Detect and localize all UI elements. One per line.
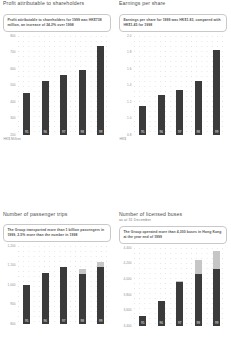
chart-bar-year-label: 95 [141,131,144,135]
chart-subtitle: as at 31 December [119,218,227,222]
chart-bar-segment-primary: 99 [213,50,220,135]
chart-bar-year-label: 96 [44,131,47,135]
chart-bar-segment-primary: 96 [158,301,165,326]
y-axis-tick-label: 3,400 [124,324,132,328]
chart-callout: The Group transported more than 1 billio… [3,224,111,242]
chart-bar-segment-primary: 97 [176,282,183,326]
y-axis-tick-label: 4,400 [124,246,132,250]
chart-bar: 98 [79,36,86,135]
y-axis-tick-label: 1.8 [127,50,131,54]
chart-bar: 97 [176,36,183,135]
chart-bar-year-label: 99 [99,320,102,324]
chart-bar-segment-primary: 95 [23,93,30,135]
chart-bar-segment-primary: 96 [42,81,49,135]
chart-bar-segment-primary: 99 [213,269,220,326]
chart-title: Earnings per share [119,0,227,6]
chart-bar-year-label: 95 [25,131,28,135]
chart-bar: 95 [139,248,146,326]
chart-bars: 9596979899 [134,248,227,326]
chart-bar: 95 [139,36,146,135]
y-axis-tick-label: 2.0 [127,34,131,38]
chart-plot-area: 8009001,0001,1001,200 9596979899 [3,246,111,324]
chart-bar-year-label: 98 [81,131,84,135]
y-axis-tick-label: 800 [10,322,15,326]
chart-callout: Profit attributable to shareholders for … [3,14,111,32]
y-axis-tick-label: 800 [10,34,15,38]
chart-bar-segment-primary: 97 [176,90,183,135]
y-axis-tick-label: 1,200 [8,244,16,248]
y-axis-tick-label: 200 [10,133,15,137]
chart-bar-segment-primary: 95 [139,106,146,135]
chart-bar-year-label: 96 [160,131,163,135]
chart-bar: 98 [79,246,86,324]
chart-bar-segment-primary: 95 [139,316,146,326]
y-axis-tick-label: 600 [10,67,15,71]
chart-bars: 9596979899 [18,36,111,135]
chart-bar-segment-secondary [213,251,220,269]
chart-bar-segment-primary: 97 [60,75,67,135]
chart-bar-segment-primary: 99 [97,46,104,135]
chart-plot-area: 3,4003,6003,8004,0004,2004,400 959697989… [119,248,227,326]
chart-bar: 98 [195,36,202,135]
chart-bar: 95 [23,246,30,324]
chart-bar-year-label: 97 [178,322,181,326]
chart-bar-segment-primary: 97 [60,267,67,324]
chart-bar-segment-secondary [195,260,202,274]
chart-bar-year-label: 96 [160,322,163,326]
chart-bar: 97 [176,248,183,326]
chart-panel-earnings-per-share: Earnings per share Earnings per share fo… [116,0,231,171]
chart-bar-segment-primary: 95 [23,285,30,324]
chart-bar: 96 [42,36,49,135]
chart-bar: 96 [42,246,49,324]
chart-title: Number of passenger trips [3,211,111,217]
chart-bar-year-label: 96 [44,320,47,324]
y-axis-tick-label: 1.0 [127,116,131,120]
y-axis-tick-label: 900 [10,302,15,306]
chart-bar-segment-primary: 96 [158,95,165,135]
chart-bar-year-label: 95 [141,322,144,326]
chart-panel-licensed-buses: Number of licensed buses as at 31 Decemb… [116,171,231,342]
y-axis-tick-label: 3,600 [124,308,132,312]
chart-bar: 99 [97,246,104,324]
y-axis-tick-label: 1,000 [8,283,16,287]
y-axis-tick-label: 1.6 [127,67,131,71]
chart-bar-segment-primary: 98 [79,70,86,135]
y-axis-tick-label: 300 [10,116,15,120]
chart-bar-year-label: 95 [25,320,28,324]
chart-bar: 99 [213,248,220,326]
chart-bar-segment-primary: 98 [195,81,202,135]
chart-bar-year-label: 97 [178,131,181,135]
chart-bars: 9596979899 [134,36,227,135]
chart-bar: 95 [23,36,30,135]
y-axis-tick-label: 4,000 [124,277,132,281]
chart-bar-year-label: 99 [215,131,218,135]
y-axis-tick-label: 3,800 [124,293,132,297]
chart-bar-year-label: 99 [215,322,218,326]
chart-bar: 96 [158,248,165,326]
y-axis-tick-label: 1.2 [127,100,131,104]
chart-bar-segment-primary: 98 [195,274,202,325]
chart-bar-year-label: 97 [62,320,65,324]
chart-unit-caption: HK$ [119,137,227,141]
y-axis-labels: 0.81.01.21.41.61.82.0 [119,36,133,135]
chart-panel-passenger-trips: Number of passenger trips The Group tran… [0,171,115,342]
chart-title: Number of licensed buses [119,211,227,217]
y-axis-tick-label: 500 [10,83,15,87]
chart-title: Profit attributable to shareholders [3,0,111,6]
y-axis-tick-label: 400 [10,100,15,104]
chart-plot-area: 0.81.01.21.41.61.82.0 9596979899 [119,36,227,135]
y-axis-tick-label: 4,200 [124,261,132,265]
y-axis-labels: 8009001,0001,1001,200 [3,246,17,324]
chart-bar: 99 [97,36,104,135]
chart-bar: 97 [60,36,67,135]
chart-callout: Earnings per share for 1999 was HK$1.83,… [119,14,227,32]
chart-bar: 98 [195,248,202,326]
chart-callout: The Group operated more than 4,300 buses… [119,226,227,244]
chart-bar-segment-primary: 99 [97,267,104,324]
y-axis-tick-label: 1.4 [127,83,131,87]
y-axis-labels: 200300400500600700800 [3,36,17,135]
chart-unit-caption: HK$ Million [3,137,111,141]
y-axis-tick-label: 0.8 [127,133,131,137]
chart-bar-segment-primary: 96 [42,273,49,324]
y-axis-labels: 3,4003,6003,8004,0004,2004,400 [119,248,133,326]
